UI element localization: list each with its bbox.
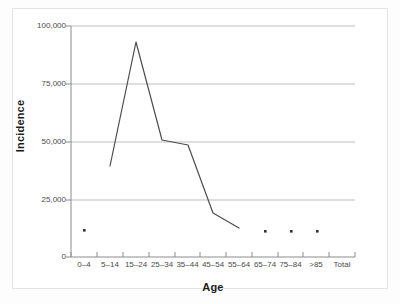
- marker-0-4: [83, 229, 86, 232]
- y-tick-marks: [66, 26, 71, 257]
- xtick-label-gt85: >85: [303, 260, 329, 269]
- xtick-label-25-34: 25–34: [149, 260, 175, 269]
- xtick-label-45-54: 45–54: [200, 260, 226, 269]
- marker-65-74: [264, 230, 267, 233]
- xtick-label-35-44: 35–44: [175, 260, 200, 269]
- chart-figure: 100,000 75,000 50,000 25,000 0 0–4 5–14 …: [0, 0, 400, 304]
- xtick-label-total: Total: [329, 260, 355, 269]
- x-axis-title: Age: [71, 281, 355, 293]
- xtick-label-55-64: 55–64: [226, 260, 252, 269]
- xtick-label-65-74: 65–74: [252, 260, 278, 269]
- marker-75-84: [290, 230, 293, 233]
- ytick-label-0: 0: [8, 252, 66, 261]
- xtick-label-0-4: 0–4: [71, 260, 97, 269]
- marker-gt85: [316, 230, 319, 233]
- xtick-label-75-84: 75–84: [278, 260, 303, 269]
- gridlines: [71, 26, 355, 200]
- ytick-label-25000: 25,000: [8, 195, 66, 204]
- xtick-label-5-14: 5–14: [97, 260, 123, 269]
- ytick-label-100000: 100,000: [8, 21, 66, 30]
- x-tick-marks: [71, 252, 355, 257]
- xtick-label-15-24: 15–24: [123, 260, 149, 269]
- data-markers: [83, 229, 319, 233]
- y-axis-title: Incidence: [14, 86, 26, 166]
